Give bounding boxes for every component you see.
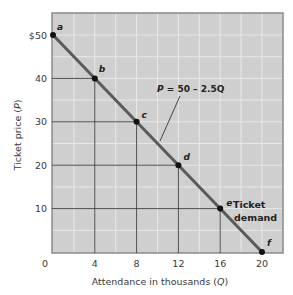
x-tick-20: 20: [256, 258, 268, 269]
data-point-a: [50, 32, 56, 38]
point-label-c: c: [142, 110, 148, 120]
data-point-c: [134, 119, 140, 125]
x-tick-16: 16: [214, 258, 226, 269]
y-tick-40: 40: [35, 73, 47, 84]
data-point-d: [175, 162, 181, 168]
point-label-d: d: [183, 152, 190, 162]
y-tick-20: 20: [35, 160, 47, 171]
data-point-e: [217, 206, 223, 212]
demand-label-line2: demand: [234, 212, 277, 223]
y-tick-30: 30: [35, 116, 47, 127]
demand-chart: abcdefP = 50 – 2.5QTicketdemand$50403020…: [0, 0, 293, 295]
point-label-b: b: [99, 64, 106, 74]
point-label-a: a: [57, 22, 63, 32]
y-axis-label: Ticket price (P): [12, 100, 23, 172]
x-tick-8: 8: [134, 258, 140, 269]
data-point-f: [259, 249, 265, 255]
demand-label-line1: Ticket: [233, 199, 266, 210]
y-tick-50: $50: [29, 30, 47, 41]
x-tick-12: 12: [172, 258, 184, 269]
x-tick-4: 4: [92, 258, 98, 269]
point-label-e: e: [226, 198, 232, 208]
equation-label: P = 50 – 2.5Q: [157, 84, 225, 94]
data-point-b: [92, 75, 98, 81]
y-tick-10: 10: [35, 203, 47, 214]
x-tick-0: 0: [42, 258, 48, 269]
x-axis-label: Attendance in thousands (Q): [92, 276, 229, 287]
